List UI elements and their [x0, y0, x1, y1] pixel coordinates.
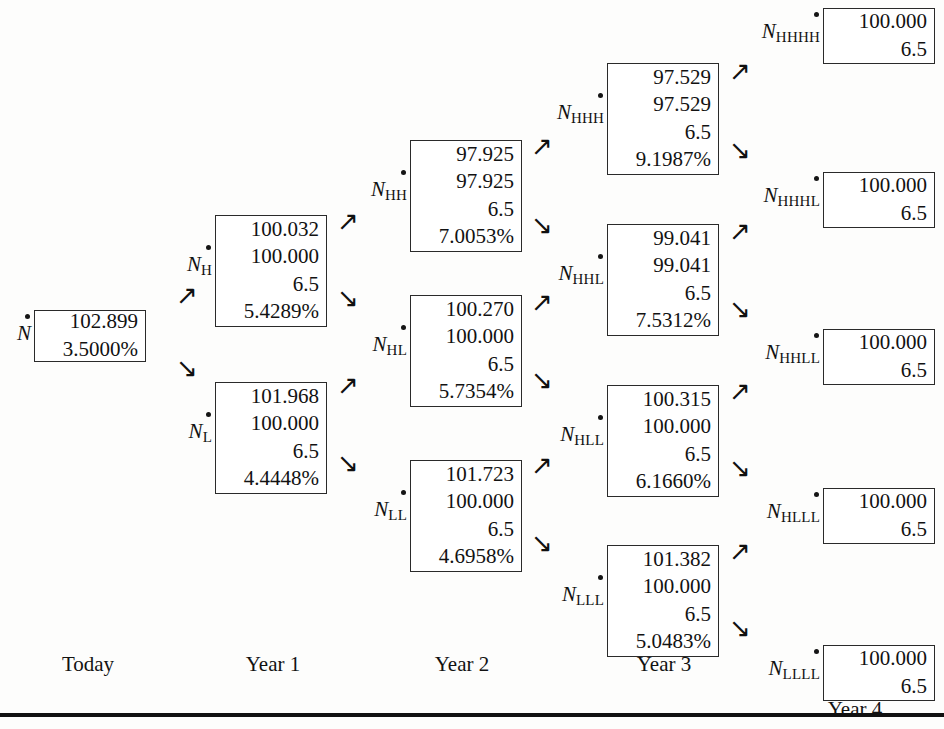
node-value: 100.000 — [831, 488, 927, 515]
node-label-subscript: LLL — [576, 592, 604, 608]
node-label-subscript: HLLL — [781, 509, 820, 525]
node-value-box: 97.92597.9256.57.0053% — [410, 140, 522, 252]
timeline-label-year-3: Year 3 — [619, 652, 709, 677]
node-dot — [401, 170, 406, 175]
node-value: 100.032 — [223, 216, 319, 243]
node-label-subscript: H — [201, 262, 212, 278]
node-label: NH — [187, 252, 215, 279]
node-value: 97.925 — [418, 141, 514, 168]
node-value-box: 101.968100.0006.54.4448% — [215, 382, 327, 494]
node-value: 5.0483% — [615, 628, 711, 655]
node-value: 99.041 — [615, 252, 711, 279]
node-value: 7.5312% — [615, 307, 711, 334]
node-value: 6.5 — [831, 516, 927, 543]
node-label-subscript: HL — [387, 342, 407, 358]
branch-arrow-down: ↘ — [729, 296, 751, 322]
branch-arrow-up: ↗ — [729, 378, 751, 404]
branch-arrow-up: ↗ — [337, 208, 359, 234]
branch-arrow-up: ↗ — [729, 218, 751, 244]
node-value: 3.5000% — [42, 336, 138, 363]
bottom-rule — [0, 713, 944, 717]
node-dot — [814, 12, 819, 17]
node-dot — [401, 490, 406, 495]
node-label-subscript: LL — [388, 507, 407, 523]
node-label: NHHHH — [762, 19, 823, 46]
node-label-subscript: HLL — [574, 432, 604, 448]
tree-node-n: N102.8993.5000% — [0, 310, 146, 362]
node-label: NHHL — [559, 261, 607, 288]
node-value: 100.000 — [831, 8, 927, 35]
node-label: NHHH — [557, 100, 607, 127]
tree-node-nh: NH100.032100.0006.55.4289% — [169, 215, 327, 327]
node-value-box: 102.8993.5000% — [34, 310, 146, 362]
node-value-box: 100.270100.0006.55.7354% — [410, 295, 522, 407]
branch-arrow-down: ↘ — [531, 530, 553, 556]
node-value: 100.000 — [831, 645, 927, 672]
tree-node-nlll: NLLL101.382100.0006.55.0483% — [533, 545, 719, 657]
node-value: 6.5 — [831, 673, 927, 700]
node-label: NLLLL — [769, 656, 823, 683]
tree-node-nl: NL101.968100.0006.54.4448% — [169, 382, 327, 494]
node-value: 100.000 — [615, 573, 711, 600]
node-label-subscript: HH — [385, 187, 407, 203]
branch-arrow-down: ↘ — [729, 615, 751, 641]
branch-arrow-down: ↘ — [729, 455, 751, 481]
node-value: 7.0053% — [418, 223, 514, 250]
timeline-label-year-2: Year 2 — [417, 652, 507, 677]
node-dot — [25, 314, 30, 319]
node-label: NHHLL — [765, 340, 823, 367]
branch-arrow-down: ↘ — [337, 285, 359, 311]
node-label-subscript: HHL — [573, 271, 604, 287]
node-value: 4.4448% — [223, 465, 319, 492]
node-value: 99.041 — [615, 225, 711, 252]
node-value-box: 100.0006.5 — [823, 329, 935, 385]
node-value: 6.5 — [615, 601, 711, 628]
node-value: 9.1987% — [615, 146, 711, 173]
node-value: 6.5 — [223, 438, 319, 465]
node-value: 97.529 — [615, 64, 711, 91]
node-label: NHHHL — [764, 183, 823, 210]
node-label: N — [17, 321, 34, 346]
tree-node-nhhll: NHHLL100.0006.5 — [735, 329, 935, 385]
node-value: 100.000 — [831, 329, 927, 356]
node-value-box: 100.032100.0006.55.4289% — [215, 215, 327, 327]
node-value: 100.000 — [418, 488, 514, 515]
branch-arrow-up: ↗ — [337, 372, 359, 398]
node-value: 6.5 — [831, 357, 927, 384]
branch-arrow-down: ↘ — [531, 212, 553, 238]
node-value-box: 100.0006.5 — [823, 488, 935, 544]
branch-arrow-up: ↗ — [729, 538, 751, 564]
node-value: 100.315 — [615, 386, 711, 413]
node-value: 100.000 — [418, 323, 514, 350]
node-value: 102.899 — [42, 308, 138, 335]
node-label-subscript: HHHL — [778, 193, 820, 209]
timeline-label-year-1: Year 1 — [228, 652, 318, 677]
node-value: 5.4289% — [223, 298, 319, 325]
tree-node-nhll: NHLL100.315100.0006.56.1660% — [533, 385, 719, 497]
tree-node-nhl: NHL100.270100.0006.55.7354% — [350, 295, 522, 407]
node-value-box: 100.0006.5 — [823, 172, 935, 228]
branch-arrow-up: ↗ — [531, 452, 553, 478]
node-value-box: 99.04199.0416.57.5312% — [607, 224, 719, 336]
branch-arrow-up: ↗ — [531, 133, 553, 159]
node-label: NLLL — [562, 582, 607, 609]
node-value-box: 101.382100.0006.55.0483% — [607, 545, 719, 657]
node-value: 100.000 — [223, 410, 319, 437]
timeline-label-today: Today — [43, 652, 133, 677]
node-dot — [598, 415, 603, 420]
node-label: NHLLL — [767, 499, 823, 526]
tree-node-nhhl: NHHL99.04199.0416.57.5312% — [533, 224, 719, 336]
tree-node-nhhhl: NHHHL100.0006.5 — [735, 172, 935, 228]
node-value: 100.270 — [418, 296, 514, 323]
node-value: 6.5 — [418, 351, 514, 378]
branch-arrow-down: ↘ — [176, 355, 198, 381]
branch-arrow-down: ↘ — [531, 367, 553, 393]
timeline-label-year-4: Year 4 — [810, 697, 900, 722]
node-value: 6.5 — [615, 441, 711, 468]
node-dot — [401, 325, 406, 330]
tree-node-nhh: NHH97.92597.9256.57.0053% — [350, 140, 522, 252]
tree-node-nhhh: NHHH97.52997.5296.59.1987% — [533, 63, 719, 175]
node-value: 101.968 — [223, 383, 319, 410]
node-label-subscript: HHLL — [779, 350, 820, 366]
node-value: 6.5 — [615, 280, 711, 307]
